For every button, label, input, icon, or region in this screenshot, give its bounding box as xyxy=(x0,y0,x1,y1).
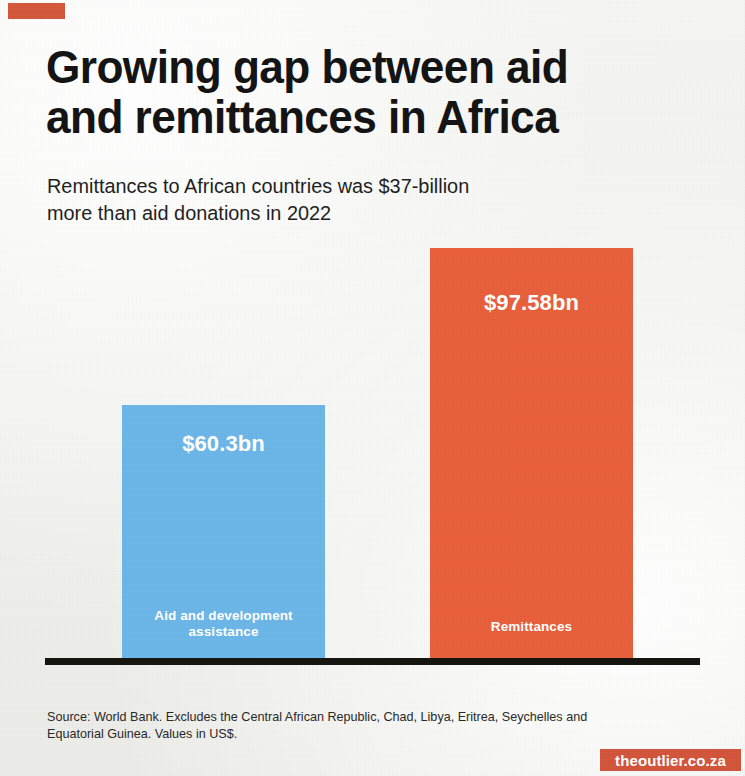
bar-remittances[interactable]: $97.58bn Remittances xyxy=(430,248,633,662)
brand-badge-label: theoutlier.co.za xyxy=(615,752,726,769)
source-note-line-1: Source: World Bank. Excludes the Central… xyxy=(47,709,707,726)
source-note-line-2: Equatorial Guinea. Values in US$. xyxy=(47,726,707,743)
brand-badge[interactable]: theoutlier.co.za xyxy=(600,749,741,771)
bar-chart: $60.3bn Aid and development assistance $… xyxy=(0,0,745,776)
bar-category-label-aid-line-2: assistance xyxy=(122,624,325,640)
infographic-sheet: Growing gap between aid and remittances … xyxy=(0,0,745,776)
bar-value-label-remittances: $97.58bn xyxy=(430,290,633,316)
bar-aid-and-development-assistance[interactable]: $60.3bn Aid and development assistance xyxy=(122,405,325,662)
bar-category-label-remittances: Remittances xyxy=(430,619,633,635)
axis-baseline xyxy=(45,658,700,665)
source-note: Source: World Bank. Excludes the Central… xyxy=(47,709,707,743)
bar-category-label-aid-line-1: Aid and development xyxy=(122,608,325,624)
bar-value-label-aid: $60.3bn xyxy=(122,431,325,457)
